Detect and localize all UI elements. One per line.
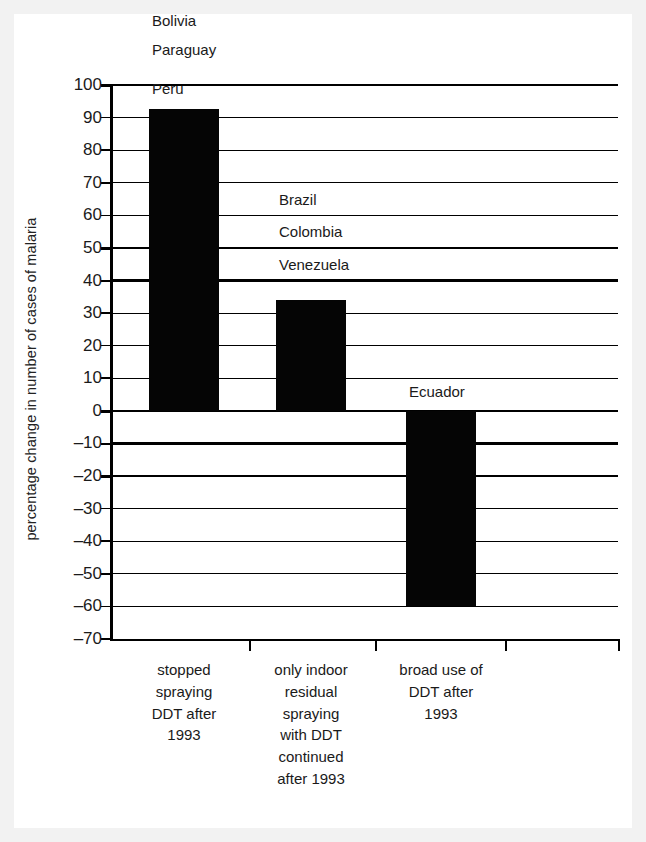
y-tick-label--70: –70: [74, 629, 102, 649]
y-tick-label-90: 90: [83, 108, 102, 128]
y-tick-label-10: 10: [83, 368, 102, 388]
y-tick-label-100: 100: [74, 75, 102, 95]
x-tick-2: [505, 639, 507, 651]
y-axis-title: percentage change in number of cases of …: [23, 217, 39, 540]
x-category-line: 1993: [376, 703, 506, 725]
y-tick-label-50: 50: [83, 238, 102, 258]
x-category-line: 1993: [119, 724, 249, 746]
y-tick-20: [101, 345, 112, 347]
x-category-line: stopped: [119, 659, 249, 681]
y-tick-0: [101, 410, 112, 413]
x-tick-0: [249, 639, 251, 651]
x-axis-line: [110, 639, 618, 641]
y-tick-70: [101, 182, 112, 184]
country-label-colombia: Colombia: [279, 223, 342, 241]
y-tick-label--50: –50: [74, 564, 102, 584]
y-tick-label-40: 40: [83, 271, 102, 291]
y-tick--40: [101, 540, 112, 542]
y-tick--10: [101, 443, 112, 446]
y-tick-60: [101, 215, 112, 217]
y-tick-label--10: –10: [74, 433, 102, 453]
y-tick-30: [101, 312, 112, 314]
gridline--10: [110, 442, 618, 445]
x-category-line: continued: [246, 746, 376, 768]
gridline--20: [110, 475, 618, 478]
x-category-line: residual: [246, 681, 376, 703]
x-category-label-0: stoppedsprayingDDT after1993: [119, 659, 249, 746]
y-tick-label--40: –40: [74, 531, 102, 551]
y-axis-title-container: percentage change in number of cases of …: [14, 144, 48, 614]
x-tick-1: [375, 639, 377, 651]
x-category-line: DDT after: [376, 681, 506, 703]
x-category-line: with DDT: [246, 724, 376, 746]
x-category-line: only indoor: [246, 659, 376, 681]
y-tick--60: [101, 606, 112, 608]
y-tick-100: [101, 84, 112, 87]
country-label-paraguay: Paraguay: [152, 41, 216, 59]
plot-area: 1009080706050403020100–10–20–30–40–50–60…: [110, 14, 618, 674]
country-label-brazil: Brazil: [279, 191, 317, 209]
y-tick-40: [101, 280, 112, 283]
gridline-100: [110, 84, 618, 87]
y-tick-80: [101, 149, 112, 151]
y-tick-label-60: 60: [83, 205, 102, 225]
x-category-line: DDT after: [119, 703, 249, 725]
gridline--50: [110, 573, 618, 574]
y-tick-90: [101, 117, 112, 119]
gridline--40: [110, 541, 618, 542]
country-label-peru: Peru: [152, 80, 184, 98]
x-category-line: after 1993: [246, 768, 376, 790]
country-label-ecuador: Ecuador: [409, 383, 465, 401]
chart-figure: percentage change in number of cases of …: [14, 14, 632, 828]
y-tick-label-20: 20: [83, 336, 102, 356]
x-category-line: broad use of: [376, 659, 506, 681]
y-tick-label-80: 80: [83, 140, 102, 160]
y-tick-label-30: 30: [83, 303, 102, 323]
y-tick--30: [101, 508, 112, 510]
y-tick-label-0: 0: [93, 401, 102, 421]
bar-broad-use: [406, 411, 476, 607]
country-label-bolivia: Bolivia: [152, 12, 196, 30]
country-label-venezuela: Venezuela: [279, 256, 349, 274]
y-tick-10: [101, 377, 112, 379]
y-axis-spine: [110, 85, 113, 641]
bar-indoor-residual: [276, 300, 346, 411]
bar-stopped-spraying: [149, 109, 219, 410]
y-tick-label-70: 70: [83, 173, 102, 193]
y-tick--50: [101, 573, 112, 575]
gridline--60: [110, 606, 618, 607]
y-tick-label--60: –60: [74, 596, 102, 616]
x-category-line: spraying: [119, 681, 249, 703]
y-tick-label--30: –30: [74, 499, 102, 519]
x-category-label-2: broad use ofDDT after1993: [376, 659, 506, 724]
y-tick--20: [101, 475, 112, 478]
x-tick-3: [618, 639, 620, 651]
y-tick-50: [101, 247, 112, 250]
x-category-line: spraying: [246, 703, 376, 725]
x-category-label-1: only indoorresidualsprayingwith DDTconti…: [246, 659, 376, 790]
y-tick-label--20: –20: [74, 466, 102, 486]
gridline--30: [110, 508, 618, 509]
